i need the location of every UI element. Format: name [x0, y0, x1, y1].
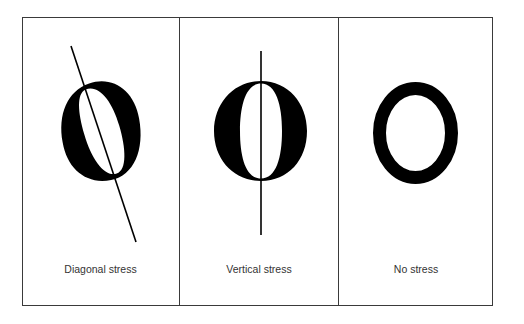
label-no-stress: No stress	[339, 262, 493, 276]
vertical-stress-glyph	[214, 51, 307, 235]
label-vertical-stress: Vertical stress	[180, 262, 338, 276]
no-stress-glyph	[380, 89, 452, 178]
label-diagonal-stress: Diagonal stress	[22, 262, 179, 276]
diagonal-stress-glyph	[50, 46, 152, 242]
